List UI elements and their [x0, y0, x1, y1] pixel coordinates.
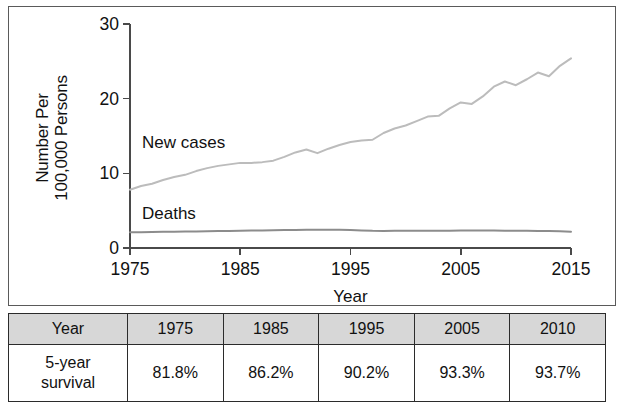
- series-annotation-new-cases: New cases: [142, 133, 225, 153]
- y-tick-20: 20: [100, 88, 119, 109]
- table-cell-survival-1975: 81.8%: [128, 345, 224, 402]
- table-header-cell-2010: 2010: [510, 314, 606, 345]
- x-tick-2005: 2005: [441, 259, 480, 280]
- table-row-label-line1: 5-year: [45, 354, 90, 371]
- x-tick-1995: 1995: [331, 259, 370, 280]
- table-cell-survival-1985: 86.2%: [223, 345, 319, 402]
- y-tick-0: 0: [109, 238, 119, 259]
- series-line-new-cases: [130, 58, 571, 189]
- x-tick-2015: 2015: [552, 259, 591, 280]
- table-row: 5-year survival 81.8% 86.2% 90.2% 93.3% …: [9, 345, 606, 402]
- table-header-cell-2005: 2005: [414, 314, 510, 345]
- y-axis-label-line1: Number Per: [33, 93, 52, 183]
- table-cell-survival-1995: 90.2%: [319, 345, 415, 402]
- y-tick-10: 10: [100, 163, 119, 184]
- series-line-deaths: [130, 230, 571, 233]
- table-header-row: Year 1975 1985 1995 2005 2010: [9, 314, 606, 345]
- table-header-cell-1995: 1995: [319, 314, 415, 345]
- table-header-cell-1985: 1985: [223, 314, 319, 345]
- y-axis-label: Number Per100,000 Persons: [33, 33, 71, 243]
- table-row-label: 5-year survival: [9, 345, 128, 402]
- x-axis-label: Year: [9, 287, 624, 307]
- table-header-cell-1975: 1975: [128, 314, 224, 345]
- survival-data-table: Year 1975 1985 1995 2005 2010 5-year sur…: [8, 313, 606, 402]
- y-axis-label-line2: 100,000 Persons: [52, 75, 71, 201]
- table-cell-survival-2010: 93.7%: [510, 345, 606, 402]
- y-tick-30: 30: [100, 14, 119, 35]
- figure-container: Number Per100,000 Persons 0102030 197519…: [0, 0, 624, 408]
- chart-panel: Number Per100,000 Persons 0102030 197519…: [8, 6, 616, 306]
- line-chart-plot: [9, 7, 615, 305]
- table-header-cell-year: Year: [9, 314, 128, 345]
- x-tick-1975: 1975: [111, 259, 150, 280]
- series-annotation-deaths: Deaths: [142, 204, 196, 224]
- table-row-label-line2: survival: [41, 374, 95, 391]
- table-cell-survival-2005: 93.3%: [414, 345, 510, 402]
- x-tick-1985: 1985: [221, 259, 260, 280]
